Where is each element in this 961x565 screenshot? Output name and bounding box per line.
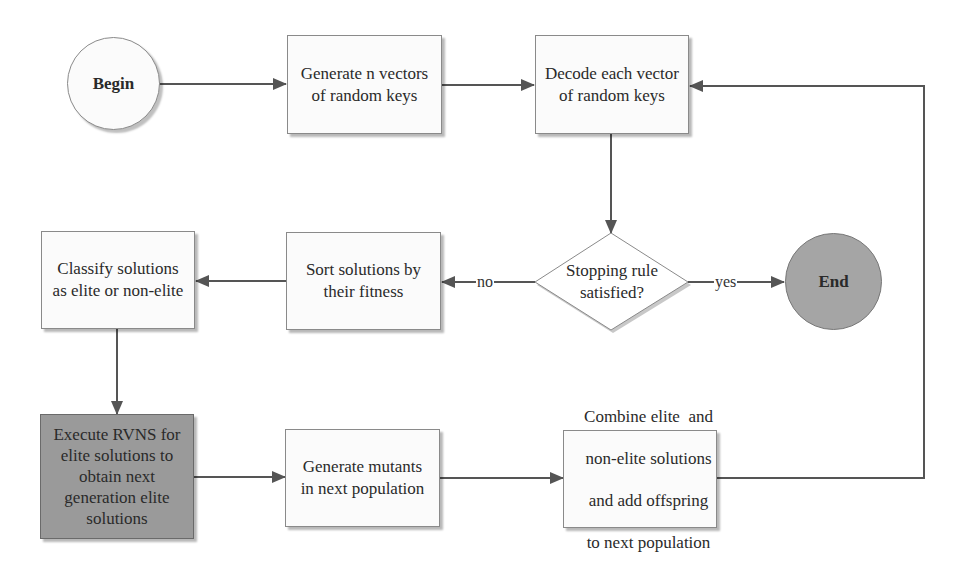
line: in next population [301, 479, 425, 498]
line: Sort solutions by [306, 260, 421, 279]
generate-vectors-label: Generate n vectors of random keys [301, 63, 428, 107]
decode-node: Decode each vector of random keys [535, 35, 689, 134]
line: Combine elite and [584, 407, 713, 426]
line: generation elite [64, 488, 169, 507]
sort-node: Sort solutions by their fitness [286, 232, 441, 330]
combine-label: Combine elite and non-elite solutions an… [567, 385, 713, 565]
line: Decode each vector [545, 64, 679, 83]
line: obtain next [79, 467, 155, 486]
line: to next population [587, 533, 711, 552]
line: Execute RVNS for [53, 425, 180, 444]
line: satisfied? [580, 283, 644, 302]
begin-node: Begin [67, 37, 160, 130]
generate-mutants-label: Generate mutants in next population [301, 456, 425, 500]
line: Stopping rule [566, 261, 658, 280]
line: Generate n vectors [301, 64, 428, 83]
line: elite solutions to [61, 446, 173, 465]
execute-rvns-node: Execute RVNS for elite solutions to obta… [40, 414, 194, 539]
line: non-elite solutions [585, 449, 711, 468]
combine-node: Combine elite and non-elite solutions an… [563, 430, 717, 528]
edge-label-yes: yes [714, 273, 737, 291]
stopping-rule-label: Stopping rule satisfied? [545, 260, 679, 304]
line: of random keys [559, 86, 665, 105]
end-label: End [818, 271, 848, 293]
edge-label-no: no [476, 273, 494, 291]
classify-node: Classify solutions as elite or non-elite [41, 231, 195, 329]
end-node: End [785, 233, 882, 330]
generate-vectors-node: Generate n vectors of random keys [287, 35, 442, 134]
classify-label: Classify solutions as elite or non-elite [53, 258, 184, 302]
line: their fitness [324, 282, 404, 301]
line: Classify solutions [57, 259, 178, 278]
line: solutions [86, 509, 147, 528]
sort-label: Sort solutions by their fitness [306, 259, 421, 303]
begin-label: Begin [93, 73, 135, 95]
line: Generate mutants [303, 457, 422, 476]
generate-mutants-node: Generate mutants in next population [285, 429, 440, 527]
line: of random keys [312, 86, 418, 105]
execute-rvns-label: Execute RVNS for elite solutions to obta… [53, 424, 180, 529]
decode-label: Decode each vector of random keys [545, 63, 679, 107]
line: as elite or non-elite [53, 281, 184, 300]
line: and add offspring [589, 491, 709, 510]
